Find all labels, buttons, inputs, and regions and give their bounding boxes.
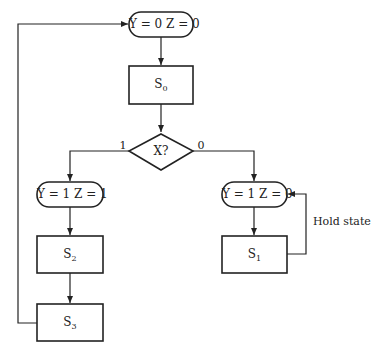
branch-true-label: 1	[118, 139, 128, 153]
state-s2-label: S2	[37, 247, 103, 266]
s0-sub: 0	[163, 84, 168, 93]
state-s1-label: S1	[222, 247, 287, 266]
terminal-left-label: Y = 1 Z = 1	[37, 187, 103, 201]
terminal-top-label: Y = 0 Z = 0	[129, 17, 193, 31]
s0-base: S	[154, 77, 162, 91]
branch-false-label: 0	[196, 139, 206, 153]
s1-base: S	[248, 247, 256, 261]
decision-label: X?	[141, 144, 181, 158]
s2-sub: 2	[72, 254, 77, 263]
hold-state-label: Hold state	[313, 215, 371, 229]
state-s0-label: S0	[129, 77, 193, 96]
s2-base: S	[63, 247, 71, 261]
state-s3-label: S3	[37, 315, 103, 334]
s3-base: S	[63, 315, 71, 329]
terminal-right-label: Y = 1 Z = 0	[222, 187, 287, 201]
flowchart-lines	[0, 0, 371, 356]
s1-sub: 1	[256, 254, 261, 263]
s3-sub: 3	[72, 322, 77, 331]
